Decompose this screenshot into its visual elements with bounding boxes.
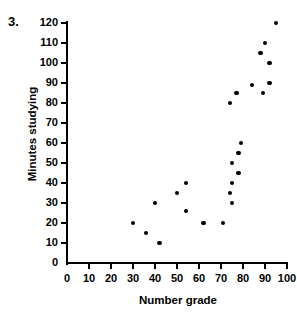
y-tick-mark [61, 82, 66, 84]
data-point [267, 61, 272, 66]
y-tick-label: 120 [28, 16, 58, 28]
y-tick-label: 70 [28, 116, 58, 128]
y-tick-label: 30 [28, 196, 58, 208]
y-tick-mark [61, 122, 66, 124]
y-tick-mark [61, 102, 66, 104]
x-tick-mark [220, 264, 222, 269]
y-tick-mark [61, 142, 66, 144]
data-point [236, 171, 241, 176]
y-tick-mark [61, 162, 66, 164]
y-tick-label: 0 [28, 256, 58, 268]
y-tick-label: 60 [28, 136, 58, 148]
x-tick-mark [176, 264, 178, 269]
x-tick-label: 100 [274, 272, 297, 284]
y-tick-label: 100 [28, 56, 58, 68]
y-tick-mark [61, 222, 66, 224]
data-point [236, 151, 241, 156]
y-tick-label: 20 [28, 216, 58, 228]
x-tick-mark [286, 264, 288, 269]
y-tick-label: 10 [28, 236, 58, 248]
plot-area [67, 23, 287, 263]
x-tick-mark [242, 264, 244, 269]
y-tick-mark [61, 22, 66, 24]
y-tick-mark [61, 62, 66, 64]
scatter-plot-figure: 3. Minutes studying Number grade 0102030… [0, 0, 297, 317]
x-tick-mark [198, 264, 200, 269]
data-point [201, 221, 206, 226]
y-tick-mark [61, 202, 66, 204]
x-tick-mark [264, 264, 266, 269]
y-tick-label: 90 [28, 76, 58, 88]
y-tick-label: 80 [28, 96, 58, 108]
x-axis-title: Number grade [67, 294, 289, 306]
x-tick-mark [132, 264, 134, 269]
y-tick-mark [61, 182, 66, 184]
y-tick-label: 110 [28, 36, 58, 48]
x-tick-mark [88, 264, 90, 269]
y-tick-mark [61, 242, 66, 244]
y-tick-mark [61, 42, 66, 44]
data-point [234, 91, 239, 96]
data-point [157, 241, 162, 246]
data-point [258, 51, 263, 56]
x-tick-mark [154, 264, 156, 269]
data-point [267, 81, 272, 86]
problem-number-label: 3. [8, 14, 19, 29]
x-tick-mark [110, 264, 112, 269]
y-tick-label: 40 [28, 176, 58, 188]
y-tick-label: 50 [28, 156, 58, 168]
